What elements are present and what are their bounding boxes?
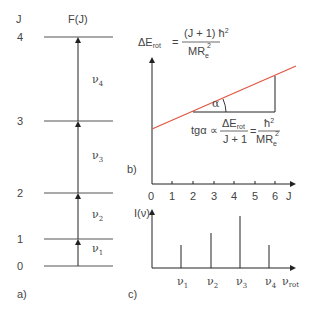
svg-text:J: J xyxy=(286,190,292,202)
transition-label-1: ν1 xyxy=(92,242,103,257)
formula-bottom-numerator-2: ħ2 xyxy=(264,117,274,129)
level-label-1: 1 xyxy=(17,233,23,245)
formula-top-denominator: MRe xyxy=(188,45,209,59)
panel-b-label: b) xyxy=(127,163,137,175)
panel-c-spectrum: I(ν) ν1 ν2 ν3 ν4 νrot c) xyxy=(128,207,299,300)
equals-sign-top: = xyxy=(172,36,178,48)
x-axis-tick-labels: 0 1 2 3 4 5 6 J xyxy=(148,190,292,202)
j-axis-label: J xyxy=(16,13,22,25)
intensity-axis-label: I(ν) xyxy=(134,207,150,219)
formula-bottom-denominator-2: MRe xyxy=(256,133,277,147)
panel-b-energy-vs-j: ΔErot = (J + 1) ħ2 MRe 2 0 1 2 3 4 5 6 J xyxy=(127,27,296,202)
y-axis-label-delta-e: ΔErot xyxy=(138,36,161,49)
formula-bottom-numerator: ΔErot xyxy=(222,117,245,130)
svg-text:5: 5 xyxy=(252,190,258,202)
transition-label-4: ν4 xyxy=(92,73,104,88)
svg-text:1: 1 xyxy=(169,190,175,202)
level-label-2: 2 xyxy=(17,187,23,199)
level-label-3: 3 xyxy=(17,115,23,127)
fj-axis-label: F(J) xyxy=(68,13,88,25)
panel-c-label: c) xyxy=(128,288,137,300)
svg-text:4: 4 xyxy=(231,190,237,202)
peak-label-4: ν4 xyxy=(265,275,277,290)
svg-text:2: 2 xyxy=(190,190,196,202)
svg-text:3: 3 xyxy=(211,190,217,202)
svg-text:0: 0 xyxy=(148,190,154,202)
formula-bottom-denominator: J + 1 xyxy=(223,133,247,145)
level-label-4: 4 xyxy=(17,31,23,43)
formula-bottom-denominator-2-sup: 2 xyxy=(275,130,279,137)
svg-text:6: 6 xyxy=(272,190,278,202)
frequency-axis-label: νrot xyxy=(282,275,299,289)
transition-label-3: ν3 xyxy=(92,149,103,164)
formula-top-numerator: (J + 1) ħ2 xyxy=(184,27,229,39)
formula-top-denominator-sup: 2 xyxy=(207,42,211,49)
peak-label-2: ν2 xyxy=(207,275,218,290)
panel-a-energy-levels: J F(J) 4 3 2 1 0 ν1 ν2 ν3 ν4 a) xyxy=(16,13,113,300)
angle-arc xyxy=(223,99,226,112)
rotational-spectrum-diagram: J F(J) 4 3 2 1 0 ν1 ν2 ν3 ν4 a) ΔErot = … xyxy=(0,0,313,310)
angle-label-alpha: α xyxy=(212,97,220,110)
formula-bottom-prefix: tgα ∝ xyxy=(191,124,218,136)
peak-label-1: ν1 xyxy=(177,275,188,290)
panel-a-label: a) xyxy=(17,288,27,300)
transition-label-2: ν2 xyxy=(92,208,103,223)
peak-label-3: ν3 xyxy=(236,275,247,290)
level-label-0: 0 xyxy=(17,260,23,272)
